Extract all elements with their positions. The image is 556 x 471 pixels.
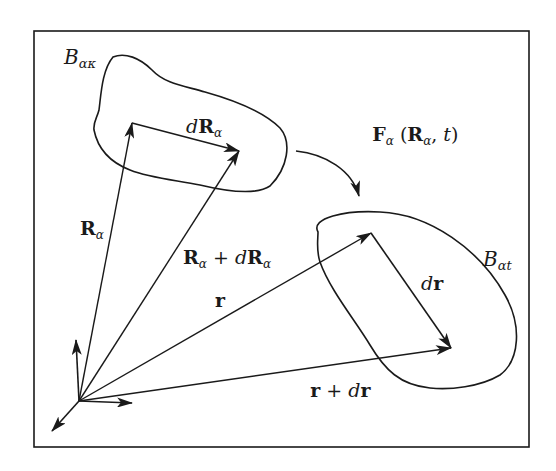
coordinate-axes [52,340,132,431]
label-reference-body: Bακ [63,45,96,71]
deformation-diagram: Bακ Bαt dRα Rα Rα + dRα r dr r + dr Fα (… [0,0,556,471]
label-r-plus-dr: r + dr [268,379,401,401]
label-dR-alpha: dRα [186,115,222,140]
label-R-alpha: Rα [80,217,104,242]
x-axis-arrow [79,401,132,403]
label-current-body: Bαt [482,247,512,273]
mapping-arrow [296,151,359,196]
y-axis-arrow [76,340,79,401]
label-R-plus-dR: Rα + dRα [183,246,271,271]
z-axis-arrow [52,401,79,431]
label-dr: dr [421,272,444,294]
current-body-outline [317,212,517,389]
label-mapping: Fα (Rα, t) [330,123,489,148]
label-r: r [215,289,226,311]
